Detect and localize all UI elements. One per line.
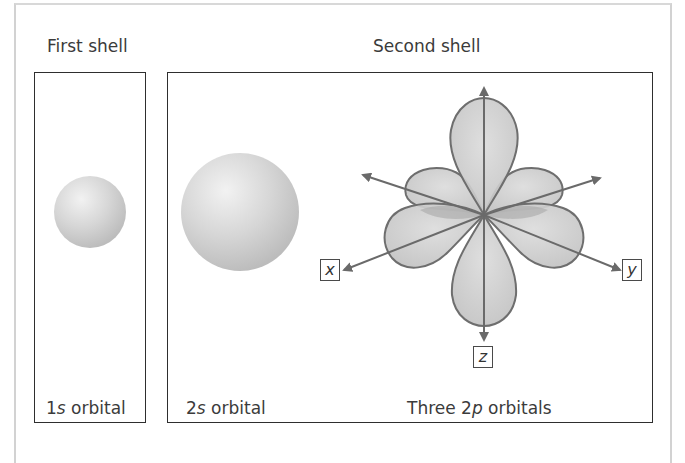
y-axis-label: y (622, 259, 642, 281)
2p-orbitals-caption: Three 2p orbitals (407, 398, 552, 418)
2s-orbital-sphere (181, 153, 299, 271)
2s-orbital-caption: 2s orbital (186, 398, 266, 418)
x-axis-label: x (320, 259, 340, 281)
z-axis-label: z (473, 346, 493, 368)
1s-orbital-caption: 1s orbital (46, 398, 126, 418)
1s-orbital-sphere (54, 176, 126, 248)
